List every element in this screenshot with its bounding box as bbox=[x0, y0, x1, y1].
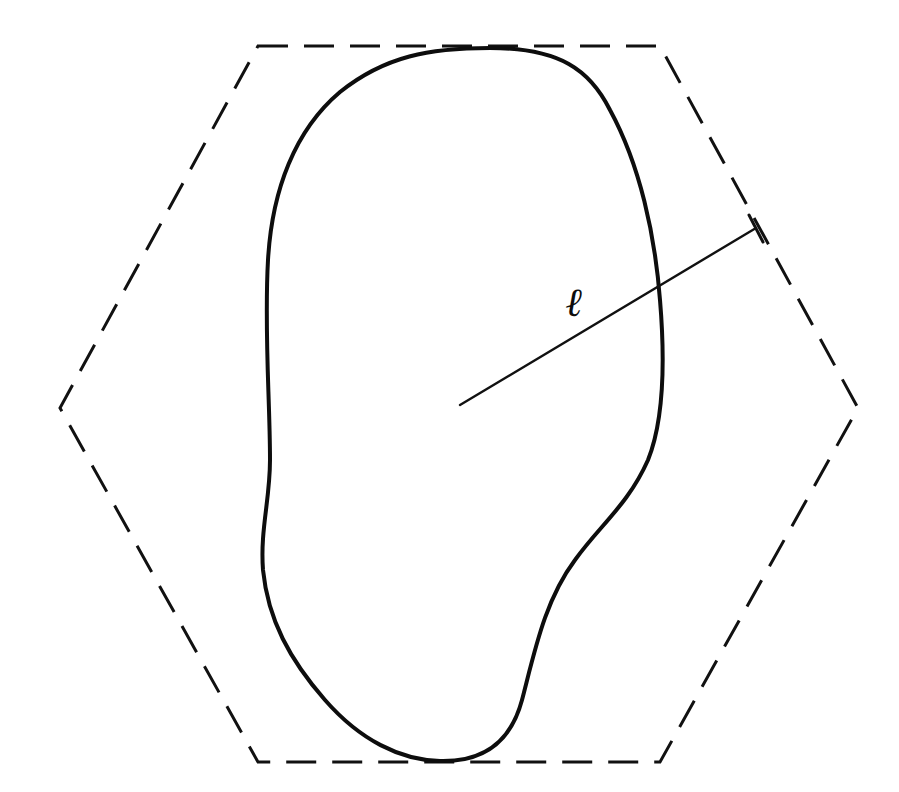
segment-label: ℓ bbox=[566, 278, 583, 325]
diagram-canvas: ℓ bbox=[0, 0, 899, 792]
dashed-hexagon bbox=[60, 46, 858, 762]
length-segment bbox=[460, 228, 756, 405]
